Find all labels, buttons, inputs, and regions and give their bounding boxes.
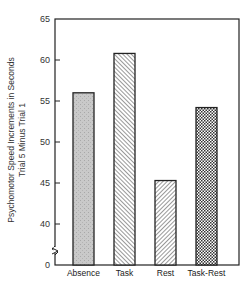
y-tick-label: 40 <box>40 219 50 229</box>
y-axis-label-line1: Psychomotor Speed Increments in Seconds <box>6 57 16 222</box>
y-tick-label: 55 <box>40 96 50 106</box>
y-tick-label: 45 <box>40 178 50 188</box>
y-axis: 0404550556065 <box>40 14 60 270</box>
bars <box>73 53 217 265</box>
bar-chart: 0404550556065 AbsenceTaskRestTask-Rest P… <box>0 0 247 286</box>
y-axis-label-line2: Trial 5 Minus Trial 1 <box>17 103 27 177</box>
x-axis-labels: AbsenceTaskRestTask-Rest <box>67 268 226 278</box>
bar-task-rest <box>196 108 217 265</box>
y-tick-label: 60 <box>40 55 50 65</box>
x-category-label: Task <box>116 268 134 278</box>
x-category-label: Rest <box>157 268 175 278</box>
y-tick-label: 0 <box>45 260 50 270</box>
x-category-label: Task-Rest <box>188 268 226 278</box>
y-tick-label: 65 <box>40 14 50 24</box>
bar-absence <box>73 93 94 265</box>
bar-rest <box>155 181 176 265</box>
y-tick-label: 50 <box>40 137 50 147</box>
x-category-label: Absence <box>67 268 100 278</box>
bar-task <box>114 53 135 265</box>
